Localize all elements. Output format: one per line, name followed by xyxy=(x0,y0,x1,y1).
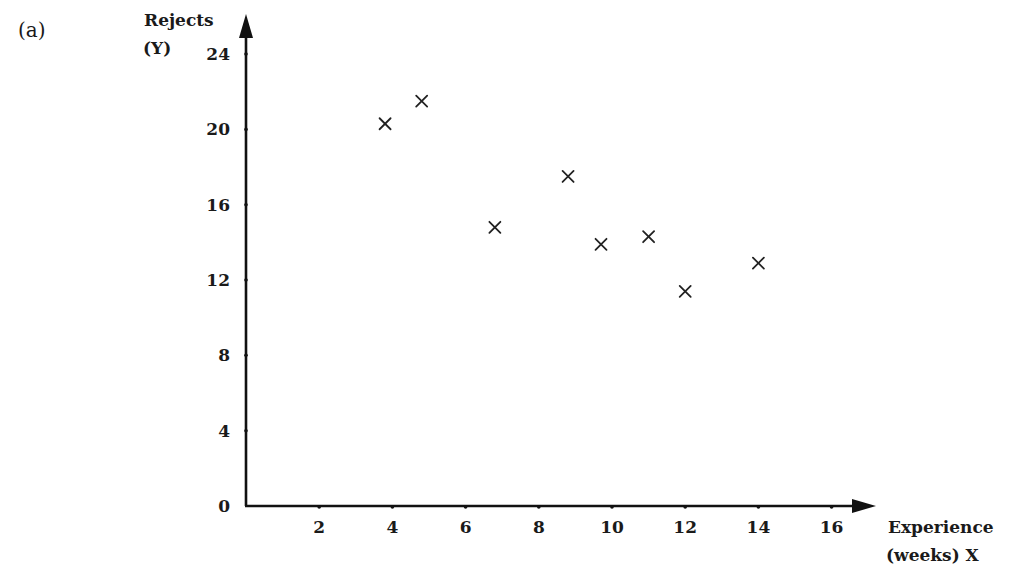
x-marker-icon xyxy=(596,239,607,250)
panel-label: (a) xyxy=(18,18,46,42)
y-tick-label: 4 xyxy=(218,421,230,441)
data-points xyxy=(380,96,764,297)
x-tick-mark xyxy=(391,505,395,509)
x-tick-mark xyxy=(317,505,321,509)
x-tick-label: 14 xyxy=(747,517,771,537)
x-marker-icon xyxy=(416,96,427,107)
x-tick-mark xyxy=(464,505,468,509)
x-marker-icon xyxy=(380,118,391,129)
x-tick-mark xyxy=(830,505,834,509)
scatter-chart: (a) Rejects (Y) Experience (weeks) X 048… xyxy=(0,0,1011,571)
x-axis-title-line1: Experience xyxy=(888,517,994,537)
x-marker-icon xyxy=(643,231,654,242)
x-tick-label: 6 xyxy=(460,517,472,537)
x-tick-mark xyxy=(537,505,541,509)
x-marker-icon xyxy=(753,258,764,269)
y-tick-mark xyxy=(244,278,248,282)
x-axis-arrowhead-icon xyxy=(852,499,876,513)
y-tick-mark xyxy=(244,429,248,433)
x-tick-label: 4 xyxy=(386,517,398,537)
x-axis-ticks: 246810121416 xyxy=(313,505,843,537)
x-marker-icon xyxy=(563,171,574,182)
x-tick-label: 16 xyxy=(820,517,844,537)
y-tick-mark xyxy=(244,203,248,207)
y-axis-title-line2: (Y) xyxy=(143,38,171,58)
x-tick-label: 10 xyxy=(600,517,624,537)
y-tick-label: 24 xyxy=(206,44,230,64)
x-tick-mark xyxy=(683,505,687,509)
x-tick-label: 12 xyxy=(673,517,697,537)
x-tick-label: 2 xyxy=(313,517,325,537)
y-axis-arrowhead-icon xyxy=(239,14,253,38)
y-tick-label: 16 xyxy=(206,195,230,215)
y-axis-ticks: 04812162024 xyxy=(206,44,247,516)
y-axis-title-line1: Rejects xyxy=(144,10,214,30)
y-tick-mark xyxy=(244,128,248,132)
x-tick-mark xyxy=(610,505,614,509)
x-marker-icon xyxy=(680,286,691,297)
y-tick-label: 12 xyxy=(206,270,230,290)
x-tick-label: 8 xyxy=(533,517,545,537)
x-marker-icon xyxy=(489,222,500,233)
y-tick-label: 20 xyxy=(206,119,230,139)
x-tick-mark xyxy=(757,505,761,509)
x-axis xyxy=(245,499,876,513)
y-tick-mark xyxy=(244,52,248,56)
x-axis-title-line2: (weeks) X xyxy=(886,545,980,565)
y-tick-label: 0 xyxy=(218,496,230,516)
y-tick-mark xyxy=(244,354,248,358)
y-tick-label: 8 xyxy=(218,345,230,365)
